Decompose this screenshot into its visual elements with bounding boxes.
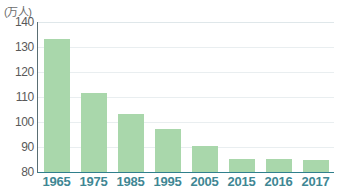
x-axis-tick-label: 1975: [79, 174, 107, 189]
bar-chart: (万人) 1401301201101009080 196519751985199…: [0, 0, 338, 193]
bar: [155, 129, 181, 173]
x-axis-tick-label: 2005: [190, 174, 218, 189]
x-axis-tick-label: 1965: [42, 174, 70, 189]
bars-group: [38, 22, 334, 172]
y-axis-tick-label: 140: [15, 15, 34, 29]
x-axis-tick-label: 1985: [116, 174, 144, 189]
x-axis-tick-labels: 19651975198519952005201520162017: [38, 174, 334, 192]
x-axis-tick-label: 2016: [264, 174, 292, 189]
y-axis-tick-label: 130: [15, 40, 34, 54]
bar: [44, 39, 70, 172]
y-axis-tick-label: 80: [21, 165, 34, 179]
bar: [303, 160, 329, 172]
y-axis-tick-label: 110: [16, 90, 34, 104]
y-axis-tick-label: 120: [15, 65, 34, 79]
x-axis-tick-label: 2017: [301, 174, 329, 189]
y-axis-tick-label: 90: [21, 140, 34, 154]
x-axis-tick-label: 2015: [227, 174, 255, 189]
bar: [81, 93, 107, 172]
plot-area: 1401301201101009080: [38, 22, 334, 172]
bar: [192, 146, 218, 172]
x-axis-tick-label: 1995: [153, 174, 181, 189]
bar: [266, 159, 292, 173]
gridline: 80: [38, 172, 334, 173]
bar: [229, 159, 255, 173]
bar: [118, 114, 144, 172]
y-axis-tick-label: 100: [15, 115, 34, 129]
